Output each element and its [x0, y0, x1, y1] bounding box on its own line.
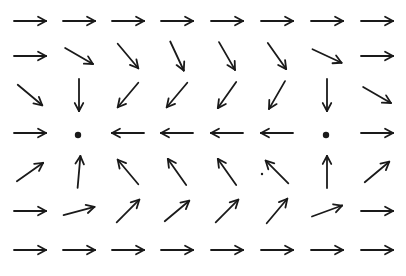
vector-arrow-icon — [63, 17, 95, 25]
vector-arrow-icon — [267, 199, 288, 224]
vector-arrow-icon — [118, 44, 139, 69]
vector-arrow-icon — [14, 52, 46, 60]
vector-arrow-icon — [261, 17, 293, 25]
vector-arrow-icon — [323, 79, 331, 111]
vector-arrow-icon — [361, 207, 393, 215]
vector-arrow-icon — [118, 83, 139, 108]
vector-arrow-icon — [311, 17, 343, 25]
vector-arrow-icon — [218, 82, 236, 108]
vector-arrow-icon — [361, 246, 393, 254]
equilibrium-point-icon — [323, 132, 329, 138]
vector-arrow-icon — [14, 207, 46, 215]
vector-arrow-icon — [161, 17, 193, 25]
vector-arrow-icon — [170, 41, 184, 70]
vector-arrow-icon — [18, 85, 43, 106]
vector-arrow-icon — [161, 246, 193, 254]
vector-arrow-icon — [64, 205, 95, 215]
vector-arrow-icon — [112, 17, 144, 25]
vector-arrow-icon — [17, 163, 43, 181]
vector-arrow-icon — [323, 156, 331, 188]
vector-arrow-icon — [361, 52, 393, 60]
vector-arrow-icon — [266, 161, 289, 184]
vector-arrow-icon — [211, 246, 243, 254]
vector-arrow-icon — [311, 246, 343, 254]
vector-arrow-icon — [219, 42, 235, 70]
vector-arrow-icon — [211, 129, 243, 137]
vector-arrow-icon — [14, 17, 46, 25]
vector-arrow-icon — [161, 129, 193, 137]
vector-arrow-icon — [361, 17, 393, 25]
vector-arrow-icon — [312, 49, 341, 63]
vector-field-diagram — [0, 0, 406, 276]
vector-arrow-icon — [63, 246, 95, 254]
vector-arrow-icon — [363, 87, 391, 103]
vector-arrow-icon — [112, 129, 144, 137]
vector-arrow-icon — [165, 201, 190, 222]
vector-arrow-icon — [216, 200, 239, 223]
vector-arrow-icon — [269, 81, 285, 109]
vector-arrow-icon — [167, 83, 188, 108]
vector-arrow-icon — [112, 246, 144, 254]
vector-arrow-icon — [65, 48, 93, 64]
vector-arrow-icon — [365, 162, 390, 183]
vector-arrow-icon — [361, 129, 393, 137]
vector-arrow-icon — [211, 17, 243, 25]
vector-arrow-icon — [14, 129, 46, 137]
vector-arrow-icon — [117, 200, 140, 223]
vector-arrow-icon — [14, 246, 46, 254]
vector-arrow-icon — [312, 204, 342, 216]
vector-arrow-icon — [218, 159, 236, 185]
vector-arrow-icon — [75, 156, 83, 188]
equilibrium-point-icon — [75, 132, 81, 138]
vector-arrow-icon — [118, 160, 139, 185]
vector-arrow-icon — [268, 43, 286, 69]
vector-arrow-icon — [261, 246, 293, 254]
vector-arrow-icon — [261, 129, 293, 137]
stray-dot-icon — [261, 173, 263, 175]
vector-arrow-icon — [75, 79, 83, 111]
vector-arrow-icon — [168, 159, 186, 185]
